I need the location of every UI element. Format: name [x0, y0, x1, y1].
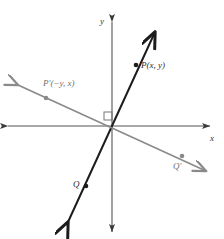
point-Q-prime-dot — [180, 154, 185, 159]
rotation-coordinate-plane-figure: y x P(x, y) P'(−y, x) Q Q' — [0, 0, 224, 239]
point-P-label: P(x, y) — [141, 61, 165, 70]
x-axis-label: x — [210, 134, 214, 143]
y-axis-label: y — [100, 17, 104, 26]
right-angle-marker — [104, 112, 112, 120]
point-P-dot — [134, 63, 139, 68]
point-P-prime-label: P'(−y, x) — [43, 79, 74, 88]
point-Q-label: Q — [73, 180, 80, 189]
point-Q-dot — [84, 184, 89, 189]
point-Q-prime-label: Q' — [173, 162, 181, 171]
coordinate-plane-canvas — [0, 0, 224, 239]
point-P-prime-dot — [44, 96, 49, 101]
